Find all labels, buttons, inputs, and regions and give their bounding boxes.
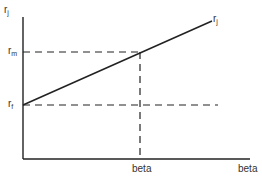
line-label: rj [213,13,218,26]
x-axis-label: beta [238,163,258,174]
sml-diagram: rj rj rm rf beta beta [0,0,262,179]
rf-label: rf [8,98,13,110]
rm-label: rm [8,45,17,57]
beta-tick-label: beta [132,163,152,174]
security-market-line [23,21,212,105]
y-axis-label: rj [4,4,9,17]
